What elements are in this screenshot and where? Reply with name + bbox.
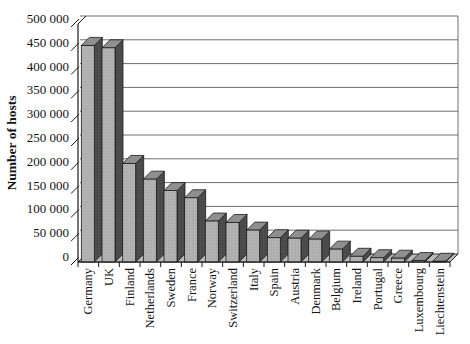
- bar-front-face: [164, 191, 177, 262]
- chart-page: 050 000100 000150 000200 000250 000300 0…: [0, 0, 470, 344]
- x-tick-label: Germany: [81, 267, 95, 314]
- x-tick-label: Portugal: [371, 267, 385, 310]
- y-axis-title: Number of hosts: [4, 95, 19, 190]
- x-tick-label: Italy: [247, 267, 261, 291]
- bar-spain: [267, 230, 288, 262]
- hosts-by-country-3d-bar-chart: 050 000100 000150 000200 000250 000300 0…: [0, 0, 470, 344]
- bar-side-face: [136, 155, 144, 262]
- bar-front-face: [371, 258, 384, 262]
- bar-front-face: [226, 222, 239, 262]
- bar-front-face: [267, 238, 280, 262]
- y-tick-label: 250 000: [27, 130, 69, 145]
- bar-netherlands: [143, 171, 164, 262]
- x-tick-label: Netherlands: [143, 268, 157, 329]
- bar-front-face: [123, 163, 136, 262]
- y-tick-label: 100 000: [27, 201, 69, 216]
- x-tick-label: Norway: [205, 267, 219, 308]
- bar-front-face: [102, 48, 115, 262]
- bar-denmark: [309, 231, 330, 262]
- y-tick-label: 50 000: [33, 225, 69, 240]
- bar-front-face: [185, 198, 198, 262]
- bar-finland: [123, 155, 144, 262]
- x-tick-label: Belgium: [329, 268, 343, 311]
- bar-front-face: [81, 45, 94, 262]
- bar-front-face: [288, 238, 301, 262]
- x-tick-label: Ireland: [350, 267, 364, 303]
- x-tick-label: Spain: [267, 267, 281, 296]
- bar-front-face: [143, 179, 156, 262]
- x-tick-label: Finland: [123, 267, 137, 306]
- y-tick-label: 200 000: [27, 154, 69, 169]
- y-tick-label: 400 000: [27, 59, 69, 74]
- y-axis-top-depth-edge: [78, 16, 86, 24]
- bar-side-face: [177, 183, 185, 262]
- x-tick-label: Austria: [288, 268, 302, 305]
- x-tick-label: UK: [102, 268, 116, 286]
- bar-front-face: [309, 239, 322, 262]
- bar-germany: [81, 37, 102, 262]
- bar-uk: [102, 40, 123, 262]
- x-tick-label: Sweden: [164, 267, 178, 307]
- bar-front-face: [205, 221, 218, 262]
- y-tick-label: 500 000: [27, 11, 69, 26]
- bar-sweden: [164, 183, 185, 262]
- x-tick-label: Liechtenstein: [433, 267, 447, 335]
- bar-front-face: [247, 230, 260, 262]
- bar-norway: [205, 213, 226, 262]
- chart-figure: 050 000100 000150 000200 000250 000300 0…: [0, 0, 470, 344]
- bar-austria: [288, 230, 309, 262]
- bar-side-face: [94, 37, 102, 262]
- bar-side-face: [156, 171, 164, 262]
- bar-italy: [247, 222, 268, 262]
- y-tick-label: 300 000: [27, 106, 69, 121]
- x-tick-label: France: [185, 268, 199, 302]
- x-tick-label: Denmark: [309, 267, 323, 314]
- y-tick-label: 350 000: [27, 82, 69, 97]
- x-tick-label: Luxembourg: [412, 267, 426, 332]
- bar-front-face: [329, 249, 342, 262]
- x-tick-label: Switzerland: [226, 267, 240, 327]
- y-tick-label: 0: [63, 249, 70, 264]
- bar-side-face: [198, 190, 206, 262]
- y-tick-label: 150 000: [27, 178, 69, 193]
- bar-france: [185, 190, 206, 262]
- y-tick-label: 450 000: [27, 35, 69, 50]
- x-tick-label: Greece: [391, 268, 405, 304]
- bar-side-face: [115, 40, 123, 262]
- bar-switzerland: [226, 214, 247, 262]
- bar-front-face: [350, 256, 363, 262]
